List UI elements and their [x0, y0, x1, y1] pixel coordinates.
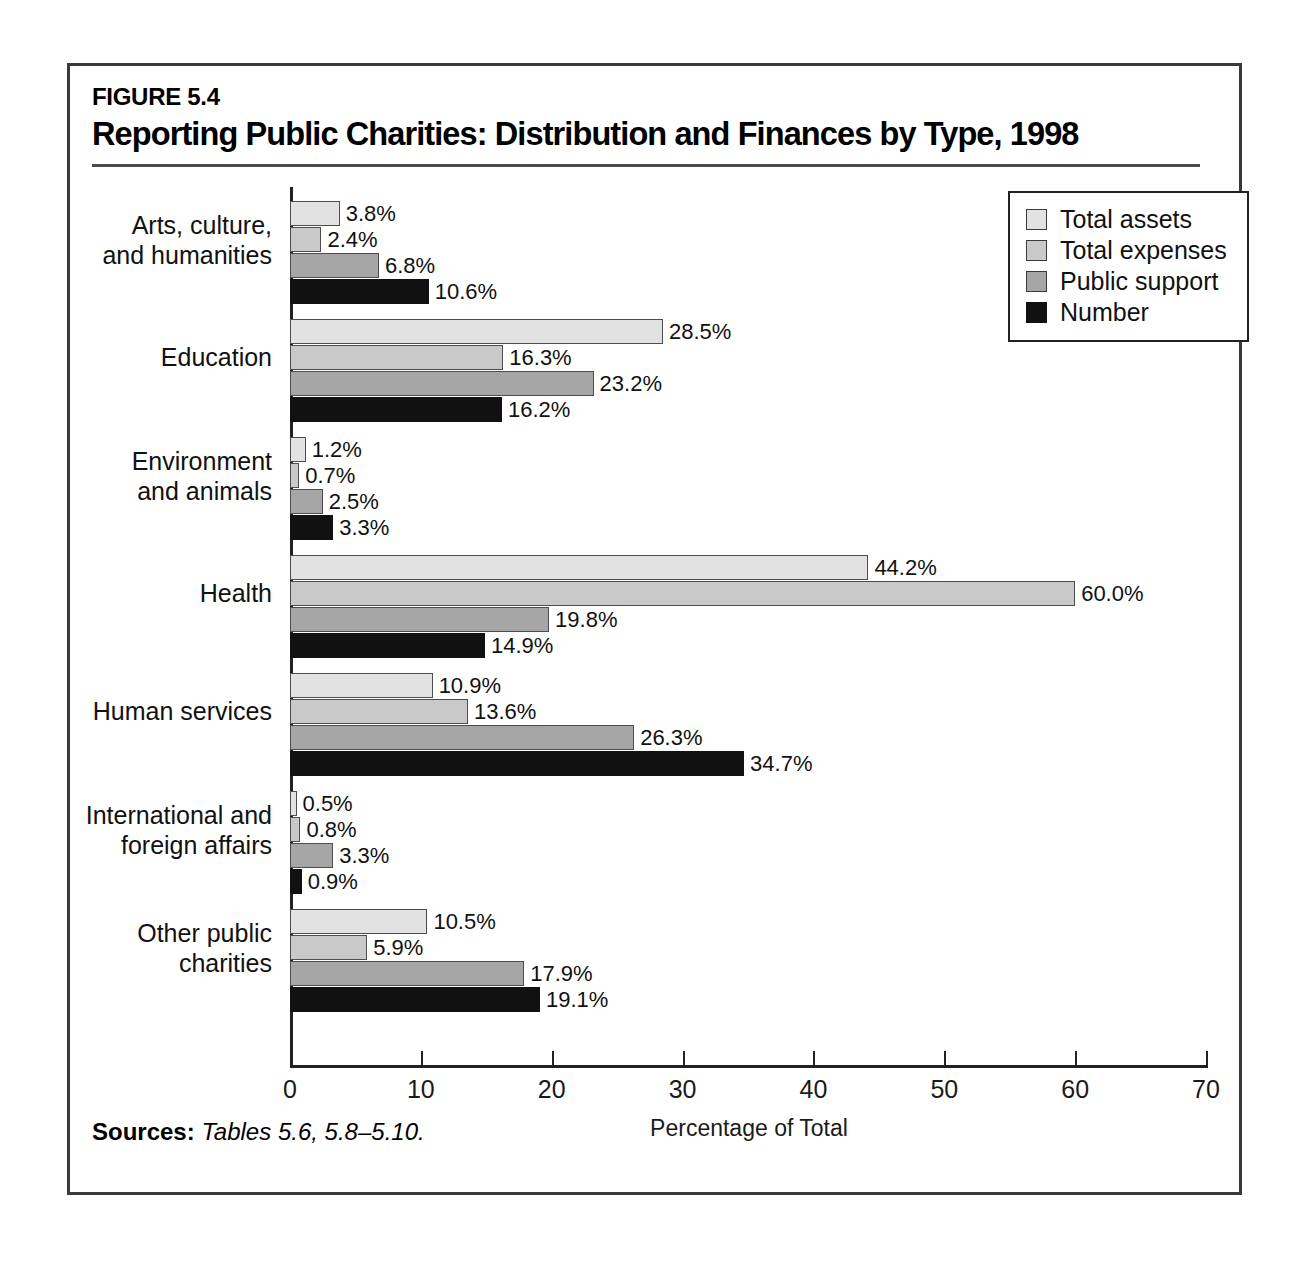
bar-total-assets: [290, 201, 340, 226]
bar-value-label: 5.9%: [367, 935, 423, 961]
bar-value-label: 3.3%: [333, 515, 389, 541]
category-label: International andforeign affairs: [12, 801, 272, 860]
bar-total-expenses: [290, 817, 300, 842]
bar-value-label: 19.1%: [540, 987, 608, 1013]
x-tick-mark: [421, 1051, 423, 1065]
category-label-line: Arts, culture,: [132, 211, 272, 239]
category-label: Environmentand animals: [12, 447, 272, 506]
bar-row: 1.2%: [290, 437, 1208, 462]
bar-value-label: 10.6%: [429, 279, 497, 305]
category-label-line: Human services: [93, 697, 272, 725]
bar-row: 60.0%Health: [290, 581, 1208, 606]
bar-number: [290, 279, 429, 304]
bar-total-expenses: [290, 345, 503, 370]
bar-row: 0.8%International andforeign affairs: [290, 817, 1208, 842]
bar-total-assets: [290, 555, 868, 580]
legend-swatch-icon: [1026, 302, 1047, 323]
category-label: Arts, culture,and humanities: [12, 211, 272, 270]
bar-group: 0.5%0.8%International andforeign affairs…: [290, 791, 1208, 895]
x-tick-mark: [1206, 1051, 1208, 1065]
bar-value-label: 28.5%: [663, 319, 731, 345]
bar-row: 13.6%Human services: [290, 699, 1208, 724]
bar-value-label: 26.3%: [634, 725, 702, 751]
bar-value-label: 60.0%: [1075, 581, 1143, 607]
bar-row: 2.5%: [290, 489, 1208, 514]
bar-public-support: [290, 607, 549, 632]
bar-row: 10.5%: [290, 909, 1208, 934]
figure-frame: FIGURE 5.4 Reporting Public Charities: D…: [67, 63, 1242, 1195]
category-label: Human services: [12, 697, 272, 727]
category-label-line: International and: [86, 801, 272, 829]
header-divider: [92, 164, 1200, 167]
x-tick-label: 10: [407, 1075, 435, 1104]
sources-label: Sources:: [92, 1118, 195, 1145]
figure-header: FIGURE 5.4 Reporting Public Charities: D…: [92, 84, 1200, 167]
x-tick-label: 0: [283, 1075, 297, 1104]
bar-value-label: 34.7%: [744, 751, 812, 777]
x-axis-title: Percentage of Total: [290, 1115, 1208, 1142]
bar-public-support: [290, 843, 333, 868]
figure-title: Reporting Public Charities: Distribution…: [92, 116, 1200, 153]
x-tick-label: 50: [930, 1075, 958, 1104]
bar-value-label: 16.2%: [502, 397, 570, 423]
bar-public-support: [290, 489, 323, 514]
x-tick-mark: [290, 1051, 292, 1065]
category-label-line: Environment: [132, 447, 272, 475]
bar-value-label: 0.5%: [297, 791, 353, 817]
bar-value-label: 2.5%: [323, 489, 379, 515]
category-label-line: Education: [161, 343, 272, 371]
bar-row: 17.9%: [290, 961, 1208, 986]
bar-number: [290, 397, 502, 422]
bar-row: 10.9%: [290, 673, 1208, 698]
bar-value-label: 14.9%: [485, 633, 553, 659]
bar-value-label: 6.8%: [379, 253, 435, 279]
bar-value-label: 0.8%: [300, 817, 356, 843]
bar-total-assets: [290, 909, 427, 934]
bar-public-support: [290, 371, 594, 396]
category-label: Other publiccharities: [12, 919, 272, 978]
bar-number: [290, 869, 302, 894]
legend-entry: Total expenses: [1026, 235, 1227, 266]
bar-row: 16.2%: [290, 397, 1208, 422]
bar-total-expenses: [290, 935, 367, 960]
bar-value-label: 23.2%: [594, 371, 662, 397]
bar-group: 1.2%0.7%Environmentand animals2.5%3.3%: [290, 437, 1208, 541]
bar-row: 44.2%: [290, 555, 1208, 580]
bar-value-label: 2.4%: [321, 227, 377, 253]
legend-entry: Public support: [1026, 266, 1227, 297]
bar-value-label: 0.9%: [302, 869, 358, 895]
bar-group: 44.2%60.0%Health19.8%14.9%: [290, 555, 1208, 659]
bar-value-label: 44.2%: [868, 555, 936, 581]
bar-total-assets: [290, 673, 433, 698]
bar-value-label: 19.8%: [549, 607, 617, 633]
category-label-line: Other public: [137, 919, 272, 947]
bar-row: 23.2%: [290, 371, 1208, 396]
x-tick-label: 60: [1061, 1075, 1089, 1104]
chart-legend: Total assetsTotal expensesPublic support…: [1008, 191, 1249, 342]
x-tick-mark: [813, 1051, 815, 1065]
bar-total-expenses: [290, 699, 468, 724]
legend-entry: Number: [1026, 297, 1227, 328]
bar-group: 10.9%13.6%Human services26.3%34.7%: [290, 673, 1208, 777]
bar-value-label: 3.3%: [333, 843, 389, 869]
bar-row: 3.3%: [290, 843, 1208, 868]
legend-swatch-icon: [1026, 271, 1047, 292]
x-tick-label: 40: [800, 1075, 828, 1104]
bar-value-label: 0.7%: [299, 463, 355, 489]
bar-value-label: 13.6%: [468, 699, 536, 725]
bar-total-expenses: [290, 581, 1075, 606]
bar-row: 26.3%: [290, 725, 1208, 750]
category-label-line: and humanities: [102, 240, 272, 268]
legend-label: Public support: [1060, 267, 1218, 296]
legend-label: Total expenses: [1060, 236, 1227, 265]
x-tick-label: 20: [538, 1075, 566, 1104]
bar-row: 0.9%: [290, 869, 1208, 894]
bar-row: 19.1%: [290, 987, 1208, 1012]
category-label-line: and animals: [137, 476, 272, 504]
bar-value-label: 16.3%: [503, 345, 571, 371]
bar-total-expenses: [290, 463, 299, 488]
bar-total-expenses: [290, 227, 321, 252]
bar-row: 34.7%: [290, 751, 1208, 776]
legend-swatch-icon: [1026, 240, 1047, 261]
legend-label: Total assets: [1060, 205, 1192, 234]
